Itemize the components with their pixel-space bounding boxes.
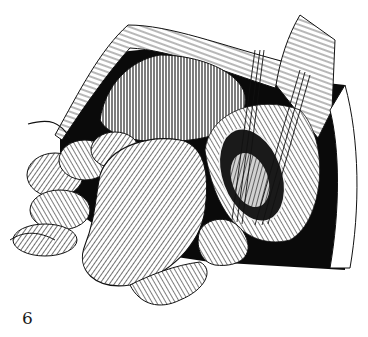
- illustration-canvas: 6: [0, 0, 368, 337]
- figure-number: 6: [22, 308, 33, 328]
- surgical-illustration: [0, 0, 368, 337]
